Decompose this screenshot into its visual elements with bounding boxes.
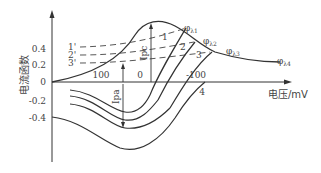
y-axis — [50, 10, 55, 162]
phi-label-4: φλ4 — [277, 56, 291, 67]
phi-label-3: φλ3 — [226, 46, 240, 57]
phi-label-2: φλ2 — [203, 36, 217, 47]
x-tick-0: 0 — [137, 70, 143, 80]
svg-text:-0.4: -0.4 — [29, 113, 47, 123]
curve-label-2: 2 — [180, 42, 186, 52]
ipc-label: Ipc — [139, 46, 149, 60]
ipa-label: Ipa — [111, 89, 121, 104]
cathodic-curves — [52, 82, 205, 149]
svg-text:0: 0 — [40, 77, 46, 87]
x-axis-label: 电压/mV — [268, 88, 308, 100]
y-axis-label: 电流函数 — [18, 55, 30, 95]
phi-label-1: φλ1 — [184, 23, 198, 34]
label-3prime: 3' — [68, 58, 76, 68]
chart: 0.4 0.2 0 -0.2 -0.4 电流函数 100 0 -100 4 电压… — [0, 0, 321, 173]
x-axis — [52, 80, 292, 85]
x-tick-4: 4 — [199, 87, 205, 97]
svg-text:0.4: 0.4 — [32, 44, 47, 54]
curve-label-3: 3 — [196, 50, 202, 60]
envelope-curve — [52, 21, 280, 82]
y-tick-labels: 0.4 0.2 0 -0.2 -0.4 — [29, 44, 47, 123]
svg-text:0.2: 0.2 — [32, 60, 46, 70]
svg-text:-0.2: -0.2 — [29, 96, 46, 106]
curve-label-1: 1 — [162, 32, 168, 42]
x-tick-100: 100 — [92, 70, 109, 80]
